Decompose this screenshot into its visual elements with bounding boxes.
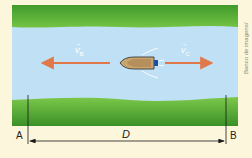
point-b-label: B bbox=[230, 130, 237, 141]
bottom-riverbank bbox=[12, 97, 238, 126]
point-a-label: A bbox=[16, 130, 23, 141]
current-velocity-label: →vC bbox=[181, 45, 190, 57]
distance-label: D bbox=[122, 128, 130, 140]
credit-text: Banco de imagens/ bbox=[243, 23, 250, 74]
boat-velocity-label: →vB bbox=[75, 45, 84, 57]
top-riverbank bbox=[12, 5, 238, 28]
image-credit: Banco de imagens/ bbox=[241, 2, 251, 82]
boat-icon bbox=[120, 57, 158, 69]
river-boat-diagram: →vB →vC A B D Banco de imagens/ bbox=[0, 0, 252, 158]
